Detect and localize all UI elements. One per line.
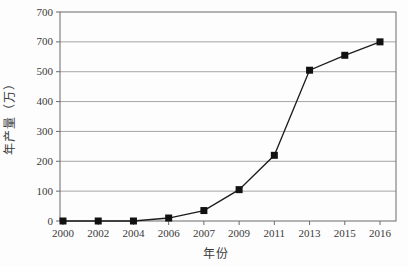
y-tick-label: 700 (37, 6, 54, 18)
x-tick-label: 2004 (122, 227, 145, 239)
data-point-marker (165, 215, 172, 222)
x-tick-label: 2011 (264, 227, 286, 239)
x-tick-label: 2000 (52, 227, 75, 239)
y-tick-label: 500 (37, 65, 54, 77)
x-axis-title: 年份 (203, 244, 229, 262)
production-line-chart: 7007005004003002001000200020022004200620… (0, 0, 408, 267)
y-tick-label: 400 (37, 95, 54, 107)
data-point-marker (271, 152, 278, 159)
data-point-marker (200, 207, 207, 214)
x-tick-label: 2013 (299, 227, 322, 239)
line-chart-figure: 7007005004003002001000200020022004200620… (0, 0, 408, 267)
plot-frame (60, 12, 396, 221)
y-tick-label: 700 (37, 35, 54, 47)
data-point-marker (95, 218, 102, 225)
data-point-marker (236, 186, 243, 193)
data-point-marker (341, 52, 348, 59)
x-tick-label: 2007 (193, 227, 216, 239)
x-tick-label: 2015 (334, 227, 357, 239)
y-tick-label: 300 (37, 125, 54, 137)
data-point-marker (377, 38, 384, 45)
y-tick-label: 100 (37, 185, 54, 197)
data-point-marker (130, 218, 137, 225)
y-tick-label: 0 (48, 215, 54, 227)
y-tick-label: 200 (37, 155, 54, 167)
y-axis-title: 年产量（万） (0, 77, 18, 155)
x-tick-label: 2002 (87, 227, 109, 239)
x-tick-label: 2006 (158, 227, 181, 239)
data-point-marker (306, 67, 313, 74)
x-tick-label: 2016 (369, 227, 392, 239)
x-tick-label: 2009 (228, 227, 251, 239)
data-point-marker (60, 218, 67, 225)
